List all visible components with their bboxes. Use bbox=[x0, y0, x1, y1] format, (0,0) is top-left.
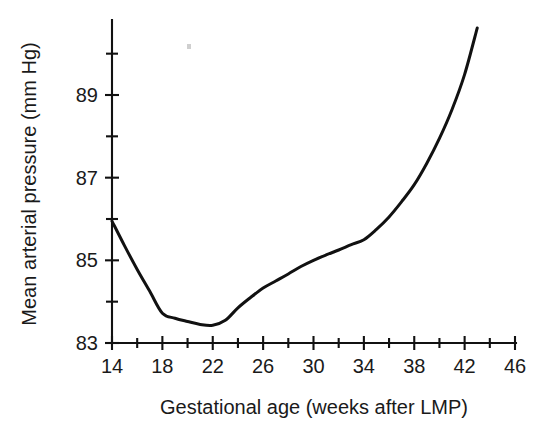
y-tick-label: 87 bbox=[76, 167, 98, 189]
y-tick-label: 83 bbox=[76, 332, 98, 354]
x-axis-title: Gestational age (weeks after LMP) bbox=[160, 396, 468, 418]
y-axis-title: Mean arterial pressure (mm Hg) bbox=[18, 42, 40, 325]
x-tick-label: 38 bbox=[403, 355, 425, 377]
x-tick-label: 14 bbox=[101, 355, 123, 377]
scan-speck bbox=[187, 44, 191, 49]
x-tick-label: 34 bbox=[353, 355, 375, 377]
x-tick-label: 30 bbox=[302, 355, 324, 377]
x-tick-label: 46 bbox=[504, 355, 526, 377]
x-tick-label: 22 bbox=[202, 355, 224, 377]
x-axis: 141822263034384246 bbox=[101, 336, 526, 377]
x-tick-label: 42 bbox=[454, 355, 476, 377]
y-tick-label: 85 bbox=[76, 249, 98, 271]
y-tick-label: 89 bbox=[76, 84, 98, 106]
x-tick-label: 26 bbox=[252, 355, 274, 377]
line-chart: 83858789 141822263034384246 Mean arteria… bbox=[0, 0, 546, 432]
chart-figure: 83858789 141822263034384246 Mean arteria… bbox=[0, 0, 546, 432]
x-tick-label: 18 bbox=[151, 355, 173, 377]
x-axis-tick-labels: 141822263034384246 bbox=[101, 355, 526, 377]
